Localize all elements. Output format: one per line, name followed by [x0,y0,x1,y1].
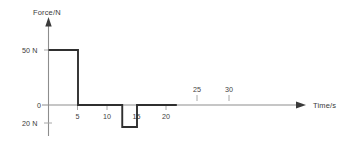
y-axis-arrowhead [45,17,51,27]
y-axis [45,17,51,136]
x-label-30: 30 [225,85,233,94]
x-axis-ticks-above [197,95,229,101]
force-step-curve [49,50,177,127]
x-axis-arrowhead [296,102,306,109]
y-label-neg20n: 20 N [22,119,38,128]
y-label-zero: 0 [37,101,41,110]
x-label-25: 25 [193,85,201,94]
y-axis-title: Force/N [33,8,61,17]
chart-svg: Force/N Time/s 50 N 0 20 N 5 [0,0,362,155]
x-axis-title: Time/s [313,101,336,110]
x-label-20: 20 [162,112,170,121]
y-label-50n: 50 N [22,46,38,55]
force-time-graph: Force/N Time/s 50 N 0 20 N 5 [0,0,362,155]
x-label-10: 10 [103,112,111,121]
x-label-5: 5 [75,112,79,121]
